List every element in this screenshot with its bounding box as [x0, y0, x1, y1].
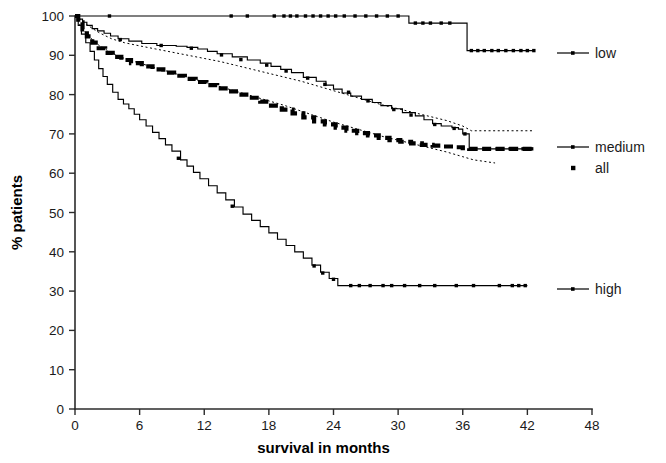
kaplan-meier-plot: 06121824303642480102030405060708090100 l…	[0, 0, 666, 463]
legend-censor-marker-medium	[571, 145, 575, 149]
censor-mark	[319, 14, 322, 17]
censor-mark	[347, 91, 350, 94]
censor-marks-high	[177, 157, 527, 288]
y-tick-label-0: 0	[56, 402, 64, 417]
censor-mark	[483, 49, 486, 52]
legend-dot-marker-all	[571, 166, 575, 170]
y-tick-label-50: 50	[49, 206, 64, 221]
censor-mark	[246, 14, 249, 17]
x-tick-label-30: 30	[391, 418, 406, 433]
censor-mark	[323, 83, 326, 86]
censor-mark	[177, 157, 180, 160]
x-tick-label-48: 48	[584, 418, 599, 433]
legend-censor-marker-high	[571, 287, 575, 291]
censor-mark	[440, 21, 443, 24]
censor-mark	[368, 284, 371, 287]
censor-mark	[159, 44, 162, 47]
censor-mark	[229, 14, 232, 17]
censor-mark	[343, 14, 346, 17]
y-tick-label-60: 60	[49, 166, 64, 181]
curve-all_ci_lower	[75, 16, 495, 163]
censor-mark	[476, 49, 479, 52]
censor-mark	[358, 284, 361, 287]
censor-mark	[517, 284, 520, 287]
censor-mark	[524, 284, 527, 287]
censor-mark	[321, 271, 324, 274]
censor-mark	[334, 14, 337, 17]
censor-mark	[403, 284, 406, 287]
x-tick-label-6: 6	[136, 418, 144, 433]
censor-mark	[526, 49, 529, 52]
censor-mark	[512, 49, 515, 52]
censor-mark	[289, 14, 292, 17]
legend-label-low: low	[595, 45, 617, 61]
x-tick-label-12: 12	[197, 418, 212, 433]
curve-medium	[75, 16, 532, 149]
legend-item-high[interactable]: high	[557, 281, 621, 297]
y-tick-label-100: 100	[41, 9, 64, 24]
censor-mark	[429, 21, 432, 24]
censor-mark	[265, 63, 268, 66]
censor-mark	[284, 69, 287, 72]
censor-mark	[472, 284, 475, 287]
censor-mark	[448, 21, 451, 24]
legend-censor-marker-low	[571, 51, 575, 55]
censor-mark	[375, 14, 378, 17]
y-tick-label-20: 20	[49, 323, 64, 338]
y-tick-label-80: 80	[49, 88, 64, 103]
censor-mark	[433, 284, 436, 287]
censor-mark	[220, 53, 223, 56]
censor-mark	[364, 14, 367, 17]
censor-mark	[409, 113, 412, 116]
legend-label-high: high	[595, 281, 621, 297]
chart-legend: lowmediumallhigh	[557, 45, 645, 297]
legend-item-all[interactable]: all	[571, 160, 609, 176]
censor-marks-low	[108, 14, 536, 52]
chart-axis-titles: survival in months% patients	[8, 175, 390, 456]
censor-mark	[418, 284, 421, 287]
censor-mark	[326, 14, 329, 17]
censor-mark	[349, 284, 352, 287]
y-axis-title: % patients	[8, 175, 25, 250]
legend-label-medium: medium	[595, 139, 645, 155]
x-axis-title: survival in months	[257, 439, 390, 456]
censor-mark	[108, 14, 111, 17]
chart-axes: 06121824303642480102030405060708090100	[41, 9, 599, 433]
censor-mark	[239, 58, 242, 61]
legend-item-low[interactable]: low	[557, 45, 617, 61]
censor-mark	[532, 49, 535, 52]
censor-mark	[386, 14, 389, 17]
censor-mark	[396, 14, 399, 17]
censor-mark	[312, 264, 315, 267]
y-tick-label-70: 70	[49, 127, 64, 142]
x-tick-label-42: 42	[520, 418, 535, 433]
censor-mark	[511, 284, 514, 287]
censor-mark	[332, 278, 335, 281]
censor-mark	[304, 14, 307, 17]
legend-label-all: all	[595, 160, 609, 176]
legend-item-medium[interactable]: medium	[557, 139, 645, 155]
censor-marks-medium	[119, 38, 534, 151]
chart-curves	[75, 14, 536, 287]
y-tick-label-30: 30	[49, 284, 64, 299]
censor-mark	[273, 14, 276, 17]
censor-mark	[519, 49, 522, 52]
censor-mark	[470, 49, 473, 52]
censor-mark	[504, 49, 507, 52]
y-tick-label-40: 40	[49, 245, 64, 260]
censor-mark	[463, 132, 466, 135]
x-tick-label-18: 18	[261, 418, 276, 433]
censor-mark	[498, 284, 501, 287]
censor-mark	[295, 14, 298, 17]
censor-mark	[392, 108, 395, 111]
y-tick-label-90: 90	[49, 48, 64, 63]
censor-mark	[490, 49, 493, 52]
censor-mark	[452, 127, 455, 130]
censor-mark	[381, 284, 384, 287]
censor-mark	[231, 205, 234, 208]
censor-mark	[421, 21, 424, 24]
censor-mark	[414, 21, 417, 24]
curve-high	[75, 16, 527, 286]
censor-mark	[497, 49, 500, 52]
censor-mark	[353, 14, 356, 17]
